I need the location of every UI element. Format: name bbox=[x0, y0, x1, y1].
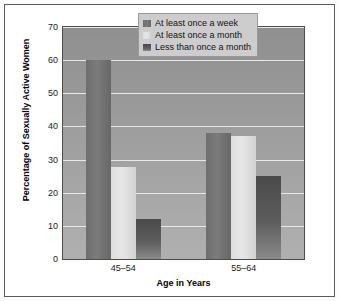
x-axis-tick-label: 45–54 bbox=[111, 263, 136, 273]
y-axis-tick-labels: 010203040506070 bbox=[10, 26, 58, 260]
legend-label: Less than once a month bbox=[155, 42, 251, 52]
chart-page: 010203040506070 Percentage of Sexually A… bbox=[0, 0, 339, 301]
legend-swatch-icon bbox=[143, 20, 151, 27]
y-axis-tick-label: 30 bbox=[12, 155, 58, 165]
y-axis-tick-label: 40 bbox=[12, 121, 58, 131]
bar bbox=[231, 136, 256, 259]
legend-label: At least once a month bbox=[155, 30, 242, 40]
y-axis-title: Percentage of Sexually Active Women bbox=[21, 15, 31, 225]
bar bbox=[136, 219, 161, 259]
legend-swatch-icon bbox=[143, 32, 151, 39]
y-axis-tick-label: 70 bbox=[12, 22, 58, 32]
legend-item: Less than once a month bbox=[143, 42, 251, 52]
y-axis-tick-label: 20 bbox=[12, 188, 58, 198]
chart-legend: At least once a weekAt least once a mont… bbox=[138, 13, 258, 57]
bar bbox=[256, 176, 281, 259]
bar bbox=[86, 60, 111, 259]
y-axis-tick-label: 60 bbox=[12, 55, 58, 65]
x-axis-title: Age in Years bbox=[62, 278, 305, 288]
y-axis-tick-label: 10 bbox=[12, 221, 58, 231]
figure-frame: 010203040506070 Percentage of Sexually A… bbox=[4, 4, 335, 297]
legend-item: At least once a week bbox=[143, 18, 251, 28]
y-axis-tick-label: 0 bbox=[12, 254, 58, 264]
bar bbox=[206, 133, 231, 259]
legend-item: At least once a month bbox=[143, 30, 251, 40]
legend-label: At least once a week bbox=[155, 18, 238, 28]
y-axis-tick-label: 50 bbox=[12, 88, 58, 98]
x-axis-tick-label: 55–64 bbox=[231, 263, 256, 273]
legend-swatch-icon bbox=[143, 44, 151, 51]
plot-area bbox=[62, 26, 305, 260]
x-axis-tick-labels: 45–5455–64 bbox=[62, 263, 305, 277]
bar bbox=[111, 167, 136, 259]
